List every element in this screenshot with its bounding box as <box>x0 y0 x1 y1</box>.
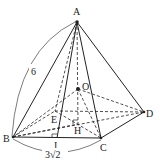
label-D: D <box>146 108 153 119</box>
label-E: E <box>51 114 57 125</box>
point-D <box>143 111 146 114</box>
diagram-svg: A O B C D E H I 6 3√2 <box>0 0 160 167</box>
edge-BC <box>13 137 101 138</box>
point-B <box>12 136 15 139</box>
point-O <box>76 87 80 91</box>
arc-AB <box>12 22 75 136</box>
edge-AD <box>77 22 144 112</box>
edge-OD <box>78 89 144 112</box>
edge-OB <box>13 89 78 137</box>
label-A: A <box>73 6 81 17</box>
label-C: C <box>100 142 107 153</box>
point-C <box>100 137 103 140</box>
label-O: O <box>82 81 89 92</box>
measure-BC: 3√2 <box>45 149 61 160</box>
label-H: H <box>74 125 81 136</box>
edge-AH <box>77 22 78 124</box>
point-A <box>75 20 79 24</box>
pyramid-diagram: A O B C D E H I 6 3√2 <box>0 0 160 167</box>
edge-ED <box>55 111 144 112</box>
label-B: B <box>3 133 10 144</box>
measure-AB: 6 <box>31 66 36 77</box>
edge-OC <box>78 89 101 138</box>
edge-AE <box>55 22 77 111</box>
